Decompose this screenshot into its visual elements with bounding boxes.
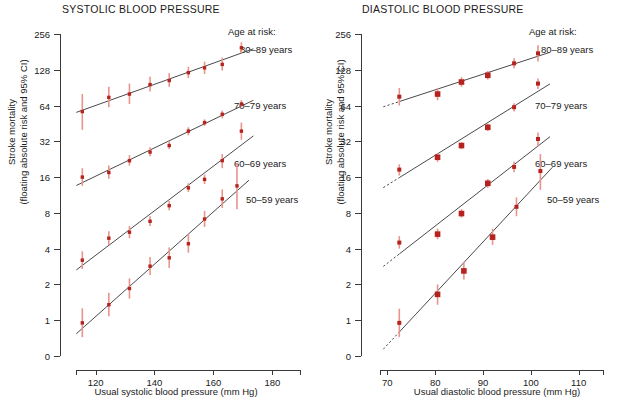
data-point — [128, 159, 131, 162]
data-point — [240, 46, 243, 49]
data-point — [168, 144, 171, 147]
data-point — [81, 175, 84, 178]
data-point — [485, 73, 491, 79]
data-point — [187, 186, 190, 189]
data-point — [485, 124, 491, 130]
series-2 — [76, 123, 253, 270]
figure-root: SYSTOLIC BLOOD PRESSUREStroke mortality(… — [0, 0, 633, 400]
data-point — [514, 205, 518, 209]
data-point — [240, 129, 243, 132]
data-point — [221, 63, 224, 66]
data-point — [203, 217, 206, 220]
data-point — [168, 256, 171, 259]
data-point — [397, 321, 401, 325]
data-point — [81, 258, 84, 261]
data-point — [128, 231, 131, 234]
data-point — [459, 79, 465, 85]
series-0 — [76, 42, 253, 130]
data-point — [148, 264, 151, 267]
data-point — [221, 197, 224, 200]
data-point — [128, 92, 131, 95]
data-point — [187, 129, 190, 132]
data-point — [461, 268, 467, 274]
data-point — [148, 83, 151, 86]
data-point — [240, 102, 243, 105]
series-1 — [383, 79, 550, 188]
data-point — [459, 211, 465, 217]
data-point — [490, 234, 496, 240]
data-point — [235, 184, 238, 187]
data-point — [168, 79, 171, 82]
data-point — [107, 303, 110, 306]
series-3 — [383, 154, 552, 349]
data-point — [168, 204, 171, 207]
series-2 — [383, 132, 550, 266]
data-point — [435, 231, 441, 237]
data-overlay — [0, 0, 316, 400]
data-point — [435, 91, 441, 97]
data-point — [187, 71, 190, 74]
data-point — [107, 171, 110, 174]
data-point — [435, 154, 441, 160]
data-point — [81, 321, 84, 324]
series-1 — [76, 100, 253, 186]
data-point — [485, 180, 491, 186]
data-point — [538, 169, 542, 173]
data-point — [221, 159, 224, 162]
data-point — [203, 178, 206, 181]
data-point — [397, 95, 401, 99]
panel-diastolic: DIASTOLIC BLOOD PRESSUREStroke mortality… — [317, 0, 633, 400]
data-point — [536, 51, 540, 55]
data-point — [187, 242, 190, 245]
series-0 — [383, 45, 550, 107]
data-point — [536, 137, 540, 141]
data-point — [397, 241, 401, 245]
data-point — [148, 220, 151, 223]
data-point — [435, 292, 441, 298]
data-point — [203, 121, 206, 124]
data-point — [107, 236, 110, 239]
data-point — [536, 82, 540, 86]
data-point — [148, 150, 151, 153]
data-point — [203, 66, 206, 69]
data-point — [512, 105, 516, 109]
data-point — [512, 165, 516, 169]
data-point — [221, 113, 224, 116]
data-overlay — [317, 0, 633, 400]
data-point — [107, 96, 110, 99]
data-point — [81, 110, 84, 113]
data-point — [128, 287, 131, 290]
data-point — [459, 143, 465, 149]
data-point — [397, 168, 401, 172]
data-point — [512, 61, 516, 65]
panel-systolic: SYSTOLIC BLOOD PRESSUREStroke mortality(… — [0, 0, 316, 400]
